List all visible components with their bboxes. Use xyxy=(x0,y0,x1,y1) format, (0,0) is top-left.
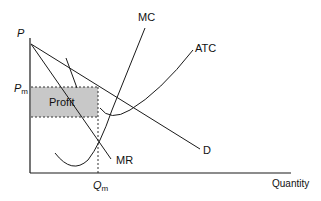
profit-label: Profit xyxy=(49,96,75,108)
qm-label: Qm xyxy=(93,179,109,193)
secondary-line xyxy=(66,58,77,88)
y-axis-label: P xyxy=(17,27,25,39)
demand-label: D xyxy=(203,144,211,156)
mr-label: MR xyxy=(116,154,133,166)
pm-label: Pm xyxy=(14,82,28,96)
atc-label: ATC xyxy=(195,42,216,54)
x-axis-label: Quantity xyxy=(272,178,309,189)
mc-label: MC xyxy=(138,11,155,23)
monopoly-diagram: P Pm Qm MC ATC MR D Profit Quantity xyxy=(0,0,321,201)
